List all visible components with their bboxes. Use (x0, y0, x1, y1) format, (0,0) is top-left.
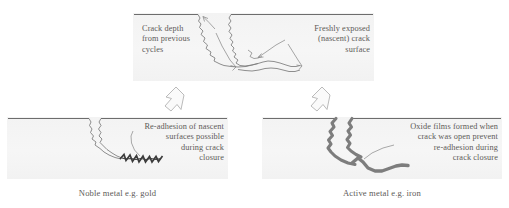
corrosion-fatigue-diagram: Crack depth from previous cycles Freshly… (0, 0, 509, 208)
diagram-linework (0, 0, 509, 208)
annotation-oxide-films: Oxide films formed when crack was open p… (368, 122, 498, 164)
leader-freshly-exposed-2-arrowhead (297, 65, 303, 70)
nascent-surface-lower (238, 68, 300, 72)
nascent-surface-upper (238, 61, 300, 67)
noble-crack-flank-right (99, 119, 123, 159)
process-arrow-left (165, 87, 184, 111)
caption-active-metal: Active metal e.g. iron (262, 188, 502, 199)
process-arrow-right (311, 87, 330, 111)
annotation-crack-depth: Crack depth from previous cycles (142, 24, 214, 55)
annotation-freshly-exposed: Freshly exposed (nascent) crack surface (286, 24, 370, 55)
oxide-film-right-flank (347, 119, 361, 158)
leader-freshly-exposed (258, 40, 285, 58)
caption-noble-metal: Noble metal e.g. gold (7, 188, 228, 199)
noble-crack-flank-left (89, 119, 121, 160)
annotation-re-adhesion: Re-adhesion of nascent surfaces possible… (128, 122, 224, 164)
